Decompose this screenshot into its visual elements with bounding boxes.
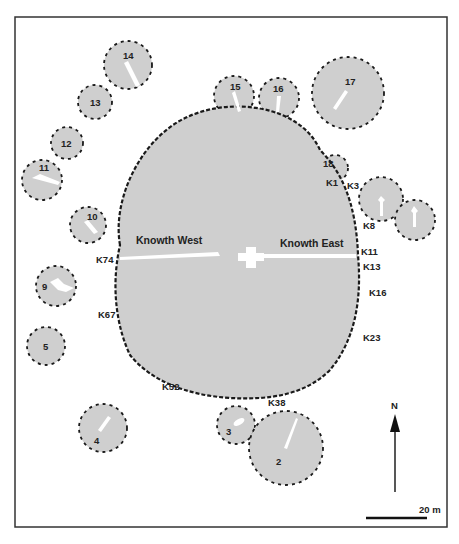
label-K52: K52 bbox=[162, 381, 179, 392]
label-13: 15 bbox=[230, 81, 241, 92]
label-K38: K38 bbox=[268, 397, 285, 408]
label-11: 13 bbox=[90, 97, 101, 108]
label-9: 11 bbox=[39, 162, 50, 173]
label-K8: K8 bbox=[363, 220, 375, 231]
label-K23: K23 bbox=[363, 332, 380, 343]
label-15: 17 bbox=[345, 76, 356, 87]
label-4: 4 bbox=[94, 435, 100, 446]
label-K3: K3 bbox=[347, 180, 359, 191]
label-K11: K11 bbox=[361, 246, 379, 257]
scale-label: 20 m bbox=[419, 504, 441, 515]
east-passage bbox=[264, 254, 356, 258]
label-3: 3 bbox=[226, 426, 231, 437]
label-K13: K13 bbox=[363, 261, 380, 272]
label-2: 2 bbox=[276, 456, 281, 467]
north-label: N bbox=[391, 400, 398, 411]
label-14: 16 bbox=[273, 83, 284, 94]
label-5: 5 bbox=[43, 341, 49, 352]
tomb-15 bbox=[312, 57, 384, 129]
label-knowth-east: Knowth East bbox=[280, 237, 344, 249]
knowth-site-plan: 14 13 12 11 10 9 5 4 3 2 15 16 17 18 Kno… bbox=[0, 0, 459, 544]
label-12: 14 bbox=[123, 50, 134, 61]
label-K74: K74 bbox=[96, 254, 114, 265]
label-knowth-west: Knowth West bbox=[136, 234, 203, 246]
label-K67: K67 bbox=[98, 309, 115, 320]
label-10: 12 bbox=[61, 138, 72, 149]
label-K1: K1 bbox=[326, 177, 339, 188]
label-K16: K16 bbox=[369, 287, 386, 298]
label-8: 10 bbox=[87, 211, 98, 222]
label-16: 18 bbox=[323, 158, 334, 169]
label-6: 9 bbox=[42, 281, 47, 292]
